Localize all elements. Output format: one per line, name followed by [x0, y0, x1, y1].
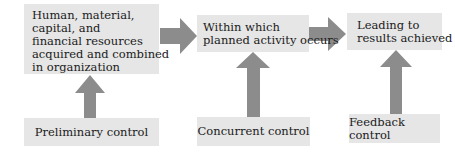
stage-process: Within which planned activity occurs [197, 15, 309, 52]
stage-inputs: Human, material, capital, and financial … [24, 4, 159, 74]
stage-text: in organization [32, 61, 151, 74]
control-concurrent: Concurrent control [197, 117, 310, 146]
control-feedback: Feedback control [349, 114, 440, 143]
arrow-up-icon [380, 50, 412, 114]
control-preliminary: Preliminary control [24, 118, 159, 146]
control-label: Concurrent control [198, 125, 310, 138]
arrow-up-icon [236, 52, 270, 117]
control-label: Feedback control [349, 116, 440, 142]
control-label: Preliminary control [35, 126, 148, 139]
stage-text: planned activity occurs [203, 34, 305, 47]
arrow-up-icon [75, 75, 105, 118]
stage-text: results achieved [357, 32, 438, 45]
stage-outputs: Leading to results achieved [347, 13, 442, 50]
